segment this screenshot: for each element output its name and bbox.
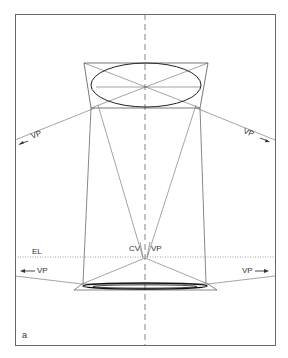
eye-level-label: EL	[32, 248, 42, 256]
upper-ellipse	[91, 63, 201, 107]
perspective-diagram	[0, 0, 288, 358]
center-of-vision-label: CV	[129, 245, 140, 253]
upper-trapezoid	[84, 63, 208, 108]
vp-label-lower-left: VP	[37, 267, 48, 275]
panel-label: a	[22, 331, 27, 340]
converge-left	[98, 105, 143, 258]
vp-line-upper-right	[196, 108, 275, 140]
vp-label-lower-right: VP	[242, 267, 253, 275]
vanishing-point-label: VP	[151, 245, 162, 253]
vp-line-upper-left	[15, 108, 95, 140]
arrow-lower-left-icon	[20, 269, 35, 273]
vp-line-lower-left	[15, 276, 82, 284]
side-line-left	[83, 108, 91, 283]
converge-right	[147, 105, 196, 258]
arrow-upper-left-icon	[18, 141, 28, 145]
arrow-upper-right-icon	[260, 138, 270, 142]
cv-down-left	[82, 258, 145, 284]
vp-line-lower-right	[208, 276, 275, 284]
cv-down-right	[145, 258, 208, 284]
arrow-lower-right-icon	[255, 269, 269, 273]
frame	[16, 15, 276, 346]
